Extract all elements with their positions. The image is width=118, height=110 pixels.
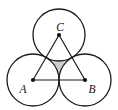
geometry-figure: A B C [0, 0, 118, 110]
figure-canvas: A B C [0, 0, 118, 110]
label-a: A [18, 83, 27, 95]
center-dot-b [83, 78, 87, 82]
label-b: B [88, 83, 95, 95]
center-dot-a [31, 78, 35, 82]
center-dot-c [57, 33, 61, 37]
label-c: C [56, 21, 64, 33]
